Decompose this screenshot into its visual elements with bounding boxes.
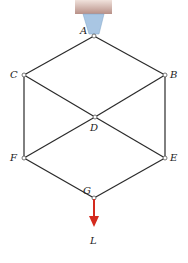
truss-diagram: L ABCDEFG xyxy=(0,0,188,263)
member-DF xyxy=(24,117,95,158)
load-arrow xyxy=(89,199,99,227)
joint-B xyxy=(163,73,167,77)
joint-label-E: E xyxy=(169,152,178,163)
joint-A xyxy=(92,34,96,38)
member-CD xyxy=(24,75,95,117)
joint-label-C: C xyxy=(10,69,18,80)
member-AB xyxy=(94,36,165,75)
joint-C xyxy=(22,73,26,77)
joint-label-A: A xyxy=(79,25,87,36)
joint-label-G: G xyxy=(83,185,91,196)
load-label: L xyxy=(89,235,97,246)
ceiling xyxy=(75,0,112,14)
member-AC xyxy=(24,36,94,75)
member-DE xyxy=(95,117,165,158)
joint-D xyxy=(93,115,97,119)
joint-label-F: F xyxy=(9,152,18,163)
joint-E xyxy=(163,156,167,160)
joint-F xyxy=(22,156,26,160)
member-BD xyxy=(95,75,165,117)
member-EG xyxy=(94,158,165,198)
joint-label-D: D xyxy=(89,122,98,133)
joint-label-B: B xyxy=(169,69,177,80)
